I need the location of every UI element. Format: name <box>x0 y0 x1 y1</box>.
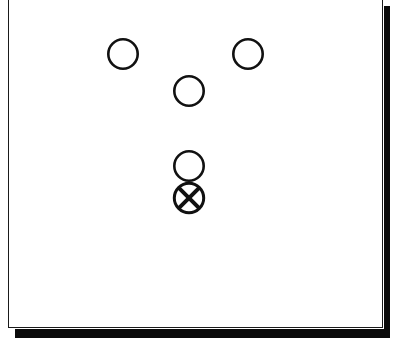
circle-player-icon <box>108 39 137 68</box>
crossed-circle-player-icon <box>174 183 203 212</box>
circle-player-icon <box>174 76 203 105</box>
circle-player-icon <box>233 39 262 68</box>
formation-diagram <box>0 0 393 347</box>
circle-player-icon <box>174 151 203 180</box>
